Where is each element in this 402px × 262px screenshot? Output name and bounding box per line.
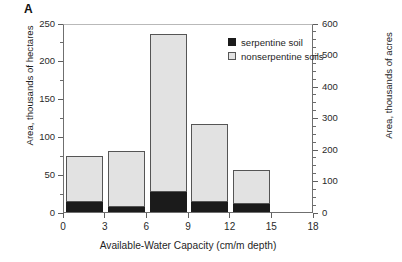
y-tick-major-left	[58, 137, 63, 138]
y-tick-label-left: 250	[23, 18, 55, 29]
y-tick-major-right	[313, 24, 318, 25]
bar-segment-serpentine	[108, 207, 145, 212]
y-tick-label-left: 50	[23, 169, 55, 180]
y-tick-major-left	[58, 99, 63, 100]
x-tick-major	[313, 213, 314, 218]
outlined-square-icon	[228, 52, 236, 60]
y-tick-minor-left	[60, 118, 63, 119]
y-tick-minor-right	[313, 110, 316, 111]
x-axis-label: Available-Water Capacity (cm/m depth)	[63, 240, 313, 251]
y-tick-minor-right	[313, 165, 316, 166]
y-tick-minor-left	[60, 194, 63, 195]
x-tick-major	[271, 213, 272, 218]
legend-item-label: serpentine soil	[241, 37, 303, 48]
legend-item-nonserpentine: nonserpentine soils	[228, 50, 324, 62]
y-tick-label-right: 500	[322, 49, 352, 60]
x-tick-label: 9	[173, 221, 203, 232]
y-tick-label-right: 300	[322, 112, 352, 123]
y-tick-minor-right	[313, 197, 316, 198]
y-tick-minor-right	[313, 102, 316, 103]
legend-item-label: nonserpentine soils	[241, 51, 324, 62]
y-tick-label-left: 0	[23, 207, 55, 218]
bar-segment-nonserpentine	[66, 156, 103, 202]
x-tick-label: 18	[298, 221, 328, 232]
x-tick-label: 15	[256, 221, 286, 232]
y-tick-minor-right	[313, 71, 316, 72]
bar-segment-serpentine	[233, 204, 270, 212]
y-tick-label-left: 200	[23, 55, 55, 66]
legend-item-serpentine: serpentine soil	[228, 36, 324, 48]
y-tick-label-right: 400	[322, 81, 352, 92]
y-tick-label-left: 150	[23, 93, 55, 104]
y-tick-minor-right	[313, 173, 316, 174]
y-tick-minor-right	[313, 189, 316, 190]
bar-segment-serpentine	[66, 202, 103, 212]
y-tick-major-left	[58, 24, 63, 25]
y-tick-label-right: 200	[322, 144, 352, 155]
y-tick-minor-right	[313, 79, 316, 80]
bar-9-12	[191, 124, 228, 212]
x-tick-label: 0	[48, 221, 78, 232]
legend: serpentine soil nonserpentine soils	[228, 36, 324, 64]
bar-0-3	[66, 156, 103, 212]
y-tick-major-right	[313, 118, 318, 119]
x-tick-major	[188, 213, 189, 218]
x-tick-major	[104, 213, 105, 218]
y-tick-minor-right	[313, 205, 316, 206]
y-tick-minor-right	[313, 142, 316, 143]
y-tick-minor-left	[60, 42, 63, 43]
x-tick-label: 6	[131, 221, 161, 232]
y-tick-minor-left	[60, 80, 63, 81]
x-tick-major	[146, 213, 147, 218]
x-tick-label: 12	[215, 221, 245, 232]
bar-12-15	[233, 170, 270, 212]
y-tick-label-right: 600	[322, 18, 352, 29]
y-tick-minor-right	[313, 134, 316, 135]
y-tick-minor-right	[313, 94, 316, 95]
bar-3-6	[108, 151, 145, 212]
y-tick-major-right	[313, 213, 318, 214]
figure-panel-a: A Area, thousands of hectares Area, thou…	[0, 0, 402, 262]
y-tick-major-right	[313, 87, 318, 88]
bar-segment-serpentine	[191, 202, 228, 212]
bar-6-9	[150, 34, 187, 212]
bar-segment-nonserpentine	[108, 151, 145, 208]
y-tick-major-left	[58, 175, 63, 176]
y-tick-label-right: 100	[322, 175, 352, 186]
y-tick-minor-left	[60, 156, 63, 157]
y-tick-minor-right	[313, 157, 316, 158]
y-tick-major-right	[313, 150, 318, 151]
y-tick-major-left	[58, 61, 63, 62]
y-axis-label-right: Area, thousands of acres	[383, 1, 394, 171]
bar-segment-nonserpentine	[150, 34, 187, 191]
x-tick-label: 3	[90, 221, 120, 232]
y-tick-major-right	[313, 181, 318, 182]
bar-segment-nonserpentine	[191, 124, 228, 203]
x-tick-major	[63, 213, 64, 218]
bar-segment-serpentine	[150, 192, 187, 212]
bar-segment-nonserpentine	[233, 170, 270, 204]
y-tick-label-left: 100	[23, 131, 55, 142]
x-tick-major	[229, 213, 230, 218]
y-tick-label-right: 0	[322, 207, 352, 218]
filled-square-icon	[228, 38, 236, 46]
y-tick-minor-right	[313, 126, 316, 127]
y-tick-minor-right	[313, 31, 316, 32]
